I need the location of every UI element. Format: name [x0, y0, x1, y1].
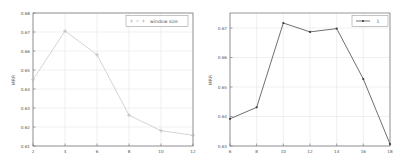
right-xtick-6: 18	[387, 149, 393, 154]
left-grid-horizontal	[33, 13, 193, 146]
left-ytick-3: 0.65	[21, 68, 31, 73]
right-ytick-0: 0.67	[218, 26, 228, 31]
left-grid-vertical	[33, 13, 193, 146]
left-xtick-1: 4	[64, 149, 67, 154]
left-yaxis-title: MRR	[11, 74, 16, 85]
chart-panel-right: 0.67 0.66 0.65 0.64 0.63 6 8 10 12 14 16…	[200, 0, 401, 166]
right-xtick-1: 8	[255, 149, 258, 154]
left-plot-frame	[33, 13, 193, 146]
left-xtick-3: 8	[128, 149, 131, 154]
chart-panel-left: 0.68 0.67 0.66 0.65 0.64 0.63 0.62 0.61 …	[0, 0, 200, 166]
left-ytick-5: 0.63	[21, 106, 31, 111]
left-ytick-2: 0.66	[21, 49, 31, 54]
right-yaxis-title: MRR	[208, 74, 213, 85]
right-legend[interactable]: 1	[352, 16, 388, 27]
right-y-tickmarks	[230, 28, 233, 146]
right-x-tickmarks	[230, 144, 390, 147]
right-xtick-5: 16	[361, 149, 367, 154]
right-xtick-2: 10	[281, 149, 287, 154]
right-ytick-2: 0.65	[218, 85, 228, 90]
left-ytick-0: 0.68	[21, 11, 31, 16]
left-xtick-0: 2	[32, 149, 35, 154]
left-ytick-4: 0.64	[21, 87, 31, 92]
left-ytick-1: 0.67	[21, 30, 31, 35]
left-xtick-2: 6	[96, 149, 99, 154]
right-ytick-1: 0.66	[218, 55, 228, 60]
figure-container: 0.68 0.67 0.66 0.65 0.64 0.63 0.62 0.61 …	[0, 0, 401, 166]
left-xtick-5: 12	[190, 149, 196, 154]
right-ytick-4: 0.63	[218, 144, 228, 149]
left-series-line	[33, 31, 193, 135]
right-xtick-3: 12	[307, 149, 313, 154]
left-xtick-4: 10	[158, 149, 164, 154]
left-legend[interactable]: window size	[126, 16, 188, 27]
right-xtick-0: 6	[229, 149, 232, 154]
right-chart-svg: 0.67 0.66 0.65 0.64 0.63 6 8 10 12 14 16…	[200, 0, 401, 166]
left-ytick-6: 0.62	[21, 125, 31, 130]
left-chart-svg: 0.68 0.67 0.66 0.65 0.64 0.63 0.62 0.61 …	[0, 0, 200, 166]
left-legend-label: window size	[150, 19, 178, 24]
right-xtick-4: 14	[334, 149, 340, 154]
left-ytick-7: 0.61	[21, 144, 31, 149]
right-legend-label: 1	[377, 19, 380, 24]
left-x-tickmarks	[33, 144, 193, 147]
right-ytick-3: 0.64	[218, 114, 228, 119]
